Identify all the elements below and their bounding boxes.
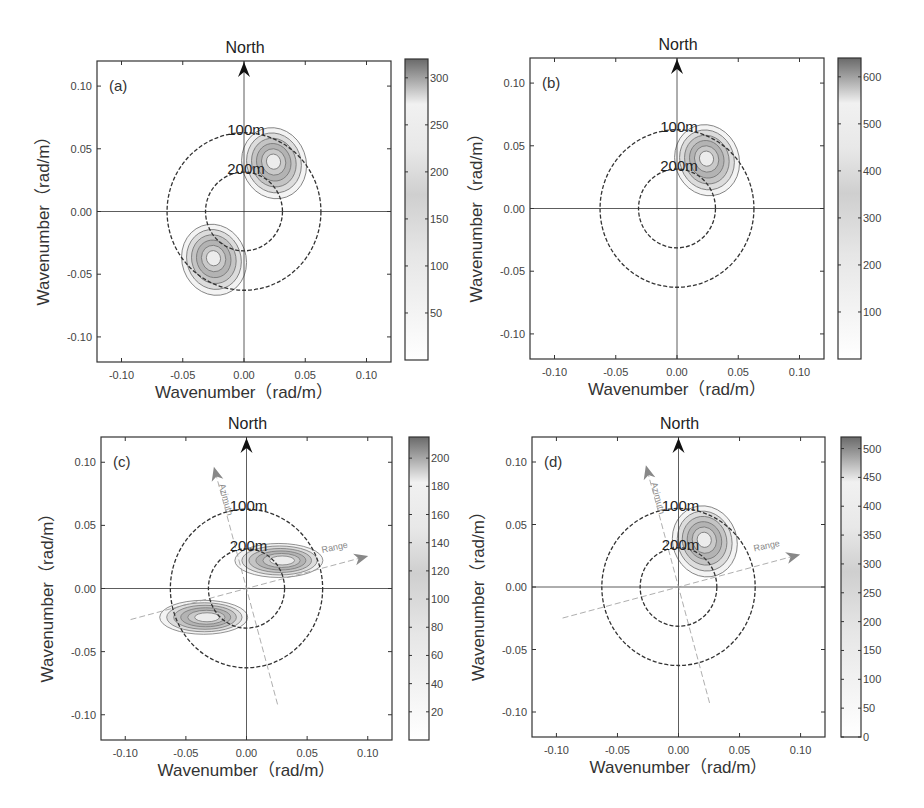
colorbar-tick-label: 150	[863, 644, 881, 656]
y-tick-label: -0.10	[502, 706, 527, 718]
colorbar-tick-label: 250	[863, 587, 881, 599]
range-arrow-icon	[785, 549, 802, 564]
range-label: Range	[753, 538, 781, 553]
y-tick-label: 0.00	[504, 203, 525, 215]
y-axis-label: Wavenumber（rad/m）	[34, 128, 53, 306]
colorbar-tick-label: 450	[863, 471, 881, 483]
x-tick-label: -0.05	[605, 744, 630, 756]
x-tick-label: 0.05	[296, 747, 317, 759]
north-label: North	[228, 415, 267, 432]
x-tick-label: -0.05	[603, 366, 628, 378]
azimuth-arrow-icon	[208, 465, 223, 482]
colorbar-tick-label: 350	[863, 529, 881, 541]
north-label: North	[660, 415, 699, 432]
y-tick-label: 0.05	[506, 519, 527, 531]
colorbar: 100200300400500600	[838, 58, 881, 359]
colorbar-tick-label: 400	[863, 165, 881, 177]
colorbar-tick-label: 300	[430, 72, 448, 84]
y-tick-label: -0.05	[71, 646, 96, 658]
y-tick-label: 0.10	[75, 456, 96, 468]
y-tick-label: -0.10	[67, 331, 92, 343]
x-tick-label: -0.10	[542, 366, 567, 378]
x-tick-label: 0.10	[356, 369, 377, 381]
colorbar-tick-label: 600	[863, 71, 881, 83]
x-tick-label: 0.05	[729, 744, 750, 756]
panel-letter: (a)	[109, 77, 127, 94]
ring-label-100m: 100m	[662, 497, 700, 514]
colorbar-tick-label: 100	[863, 306, 881, 318]
y-tick-label: 0.05	[504, 140, 525, 152]
spectrum-peak	[160, 600, 248, 634]
panel-b: 100m200m-0.10-0.10-0.05-0.050.000.000.05…	[467, 36, 881, 399]
ring-label-200m: 200m	[662, 536, 700, 553]
colorbar-tick-label: 40	[431, 678, 443, 690]
panel-c: RangeAzimuth100m200m-0.10-0.10-0.05-0.05…	[38, 415, 449, 780]
ring-label-100m: 100m	[227, 121, 265, 138]
colorbar-tick-label: 120	[431, 565, 449, 577]
x-tick-label: 0.00	[233, 369, 254, 381]
ring-label-200m: 200m	[227, 160, 265, 177]
x-tick-label: 0.00	[666, 366, 687, 378]
range-arrow-icon	[353, 550, 370, 565]
north-label: North	[658, 36, 697, 53]
colorbar-tick-label: 80	[431, 621, 443, 633]
y-axis-label: Wavenumber（rad/m）	[38, 505, 57, 683]
x-axis-label: Wavenumber（rad/m）	[588, 380, 766, 399]
colorbar-tick-label: 400	[863, 500, 881, 512]
x-tick-label: -0.10	[544, 744, 569, 756]
ring-label-200m: 200m	[660, 157, 698, 174]
y-tick-label: -0.05	[500, 265, 525, 277]
panel-letter: (c)	[113, 453, 131, 470]
colorbar: 20406080100120140160180200	[409, 437, 449, 740]
x-tick-label: 0.10	[357, 747, 378, 759]
colorbar-tick-label: 60	[431, 649, 443, 661]
y-tick-label: 0.00	[71, 206, 92, 218]
x-tick-label: -0.10	[109, 369, 134, 381]
colorbar: 50100150200250300	[405, 59, 448, 360]
y-tick-label: -0.10	[500, 328, 525, 340]
y-tick-label: 0.00	[75, 583, 96, 595]
colorbar-tick-label: 50	[430, 307, 442, 319]
panel-letter: (d)	[544, 453, 562, 470]
y-axis-label: Wavenumber（rad/m）	[467, 125, 486, 303]
ring-label-100m: 100m	[660, 118, 698, 135]
y-tick-label: 0.10	[504, 77, 525, 89]
y-tick-label: -0.10	[71, 709, 96, 721]
colorbar-tick-label: 20	[431, 706, 443, 718]
y-axis-label: Wavenumber（rad/m）	[469, 503, 488, 681]
colorbar-tick-label: 100	[863, 673, 881, 685]
colorbar-tick-label: 200	[431, 452, 449, 464]
colorbar-tick-label: 100	[430, 260, 448, 272]
azimuth-arrow-icon	[640, 464, 655, 481]
colorbar-tick-label: 200	[430, 166, 448, 178]
x-axis-label: Wavenumber（rad/m）	[155, 383, 333, 402]
colorbar-tick-label: 300	[863, 558, 881, 570]
x-tick-label: 0.05	[295, 369, 316, 381]
y-tick-label: 0.00	[506, 581, 527, 593]
colorbar-tick-label: 300	[863, 212, 881, 224]
x-tick-label: -0.10	[113, 747, 138, 759]
colorbar-tick-label: 500	[863, 118, 881, 130]
x-tick-label: 0.10	[789, 366, 810, 378]
figure-canvas: 100m200m-0.10-0.10-0.05-0.050.000.000.05…	[0, 0, 924, 808]
panel-letter: (b)	[542, 74, 560, 91]
x-tick-label: 0.00	[668, 744, 689, 756]
ring-label-200m: 200m	[230, 537, 268, 554]
colorbar-tick-label: 500	[863, 443, 881, 455]
x-tick-label: -0.05	[173, 747, 198, 759]
colorbar-tick-label: 200	[863, 259, 881, 271]
colorbar-tick-label: 180	[431, 480, 449, 492]
colorbar-tick-label: 0	[863, 731, 869, 743]
y-tick-label: 0.10	[71, 80, 92, 92]
ring-label-100m: 100m	[230, 497, 268, 514]
x-tick-label: 0.10	[790, 744, 811, 756]
colorbar-tick-label: 250	[430, 119, 448, 131]
colorbar-tick-label: 160	[431, 509, 449, 521]
colorbar-tick-label: 140	[431, 537, 449, 549]
y-tick-label: 0.05	[75, 519, 96, 531]
y-tick-label: -0.05	[67, 268, 92, 280]
y-tick-label: 0.05	[71, 143, 92, 155]
colorbar-tick-label: 200	[863, 616, 881, 628]
north-label: North	[225, 39, 264, 56]
colorbar-tick-label: 150	[430, 213, 448, 225]
